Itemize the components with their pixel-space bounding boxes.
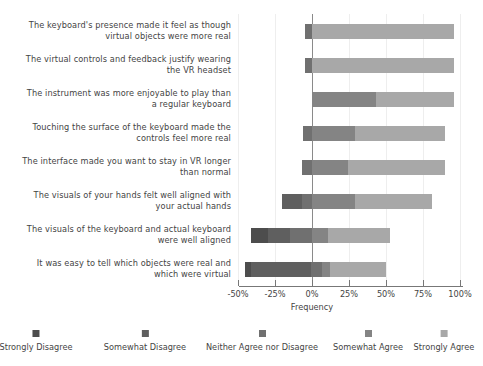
legend-label: Neither Agree nor Disagree xyxy=(206,342,318,352)
bar-segment xyxy=(312,126,355,141)
bar-segment xyxy=(312,160,348,175)
bar-segment xyxy=(305,24,312,39)
legend-swatch-icon xyxy=(441,330,448,337)
bar-segment xyxy=(330,262,386,277)
bar-segment xyxy=(268,228,290,243)
bar-segment xyxy=(302,160,312,175)
chart-legend: Strongly DisagreeSomewhat DisagreeNeithe… xyxy=(0,330,483,360)
chart-row: The instrument was more enjoyable to pla… xyxy=(0,82,483,116)
x-tick-mark xyxy=(238,280,239,286)
legend-item[interactable]: Strongly Agree xyxy=(414,330,475,352)
chart-row: The virtual controls and feedback justif… xyxy=(0,48,483,82)
bar-segment xyxy=(312,92,376,107)
legend-item[interactable]: Somewhat Agree xyxy=(333,330,403,352)
legend-label: Strongly Agree xyxy=(414,342,475,352)
chart-row: Touching the surface of the keyboard mad… xyxy=(0,116,483,150)
bar-segment xyxy=(251,262,310,277)
bar-segment xyxy=(322,262,329,277)
bar-track xyxy=(0,252,483,286)
legend-item[interactable]: Somewhat Disagree xyxy=(104,330,186,352)
x-tick-mark xyxy=(460,280,461,286)
chart-row: The interface made you want to stay in V… xyxy=(0,150,483,184)
bar-track xyxy=(0,184,483,218)
x-axis-line xyxy=(239,286,463,287)
plot-area: The keyboard's presence made it feel as … xyxy=(0,14,483,286)
bar-track xyxy=(0,14,483,48)
chart-row: The visuals of your hands felt well alig… xyxy=(0,184,483,218)
bar-segment xyxy=(303,126,312,141)
bar-segment xyxy=(312,228,328,243)
bar-segment xyxy=(376,92,454,107)
bar-segment xyxy=(290,228,312,243)
legend-swatch-icon xyxy=(32,330,39,337)
legend-swatch-icon xyxy=(259,330,266,337)
x-tick-label: 100% xyxy=(437,289,483,299)
x-tick-mark xyxy=(349,280,350,286)
bar-segment xyxy=(312,194,355,209)
bar-track xyxy=(0,82,483,116)
bar-track xyxy=(0,48,483,82)
x-axis-title: Frequency xyxy=(291,302,333,312)
bar-segment xyxy=(328,228,390,243)
chart-row: It was easy to tell which objects were r… xyxy=(0,252,483,286)
bar-segment xyxy=(355,126,445,141)
bar-segment xyxy=(355,194,432,209)
bar-segment xyxy=(311,262,323,277)
bar-segment xyxy=(251,228,267,243)
bar-segment xyxy=(302,194,312,209)
legend-label: Strongly Disagree xyxy=(0,342,73,352)
bar-segment xyxy=(348,160,446,175)
chart-row: The visuals of the keyboard and actual k… xyxy=(0,218,483,252)
legend-swatch-icon xyxy=(365,330,372,337)
legend-item[interactable]: Strongly Disagree xyxy=(0,330,73,352)
bar-segment xyxy=(305,58,312,73)
x-tick-mark xyxy=(312,280,313,286)
chart-row: The keyboard's presence made it feel as … xyxy=(0,14,483,48)
likert-diverging-bar-chart: The keyboard's presence made it feel as … xyxy=(0,0,483,366)
x-tick-mark xyxy=(275,280,276,286)
x-tick-mark xyxy=(423,280,424,286)
x-tick-mark xyxy=(386,280,387,286)
bar-segment xyxy=(312,24,454,39)
bar-track xyxy=(0,116,483,150)
bar-segment xyxy=(282,194,301,209)
legend-item[interactable]: Neither Agree nor Disagree xyxy=(206,330,318,352)
bar-segment xyxy=(312,58,454,73)
bar-track xyxy=(0,150,483,184)
bar-track xyxy=(0,218,483,252)
legend-swatch-icon xyxy=(141,330,148,337)
legend-label: Somewhat Disagree xyxy=(104,342,186,352)
legend-label: Somewhat Agree xyxy=(333,342,403,352)
